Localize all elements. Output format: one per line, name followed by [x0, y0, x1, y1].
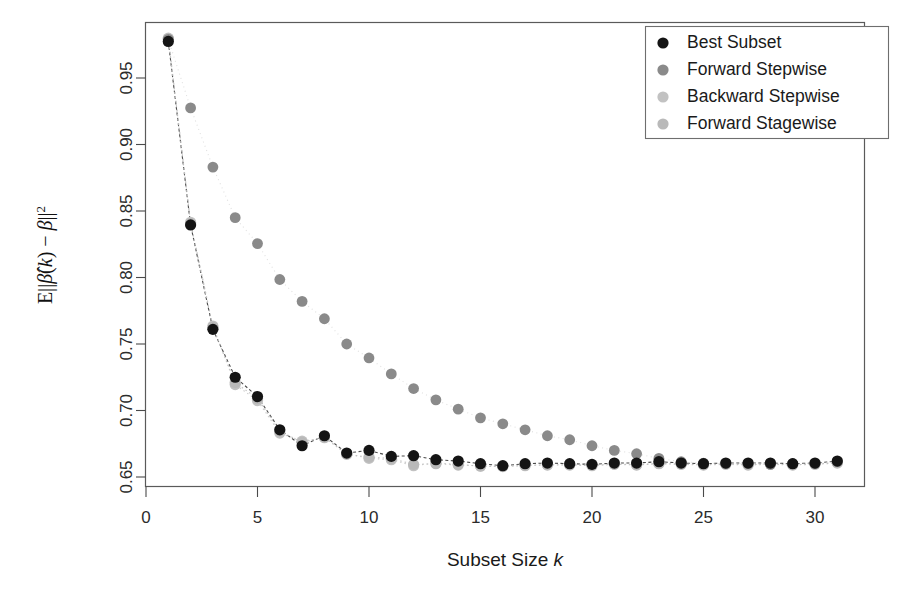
data-point	[185, 219, 196, 230]
data-point	[720, 457, 731, 468]
scatter-plot: 0.650.700.750.800.850.900.95 05101520253…	[0, 0, 908, 597]
data-point	[363, 445, 374, 456]
data-point	[586, 459, 597, 470]
data-point	[832, 455, 843, 466]
data-point	[564, 458, 575, 469]
data-point	[341, 339, 352, 350]
data-point	[297, 440, 308, 451]
data-point	[208, 162, 219, 173]
data-point	[386, 369, 397, 380]
data-point	[453, 404, 464, 415]
legend-label: Forward Stepwise	[687, 59, 827, 79]
data-point	[319, 313, 330, 324]
data-point	[787, 458, 798, 469]
data-point	[520, 458, 531, 469]
data-point	[453, 455, 464, 466]
data-point	[609, 445, 620, 456]
y-tick-label: 0.90	[117, 128, 136, 161]
legend-label: Forward Stagewise	[687, 113, 837, 133]
x-tick-label: 30	[806, 508, 825, 527]
data-point	[274, 274, 285, 285]
data-point	[252, 391, 263, 402]
x-axis-title-text: Subset Size	[447, 549, 548, 570]
x-tick-label: 5	[253, 508, 262, 527]
x-axis-title: Subset Size k	[447, 549, 565, 570]
y-tick-label: 0.85	[117, 194, 136, 227]
data-point	[497, 460, 508, 471]
data-point	[430, 454, 441, 465]
y-axis-ticks: 0.650.700.750.800.850.900.95	[117, 61, 145, 493]
y-tick-label: 0.80	[117, 261, 136, 294]
data-point	[207, 324, 218, 335]
x-tick-label: 10	[360, 508, 379, 527]
data-point	[431, 394, 442, 405]
data-point	[185, 103, 196, 114]
data-point	[274, 424, 285, 435]
data-point	[809, 457, 820, 468]
y-tick-label: 0.70	[117, 394, 136, 427]
data-point	[542, 457, 553, 468]
data-point	[364, 353, 375, 364]
data-point	[676, 457, 687, 468]
data-point	[408, 383, 419, 394]
data-point	[743, 457, 754, 468]
y-tick-label: 0.65	[117, 460, 136, 493]
legend-marker	[657, 118, 668, 129]
data-point	[408, 450, 419, 461]
y-axis-title: E||β̂(k) − β||2	[33, 206, 57, 304]
y-tick-label: 0.75	[117, 327, 136, 360]
data-point	[230, 212, 241, 223]
data-point	[497, 418, 508, 429]
data-point	[341, 447, 352, 458]
legend-label: Backward Stepwise	[687, 86, 840, 106]
data-point	[230, 372, 241, 383]
legend-marker	[657, 91, 668, 102]
x-axis-title-symbol: k	[554, 549, 565, 570]
svg-text:Subset Size k: Subset Size k	[447, 549, 565, 570]
data-point	[564, 434, 575, 445]
x-tick-label: 20	[583, 508, 602, 527]
data-point	[386, 451, 397, 462]
data-point	[520, 424, 531, 435]
data-point	[631, 457, 642, 468]
x-axis-ticks: 051015202530	[141, 487, 824, 528]
legend: Best SubsetForward StepwiseBackward Step…	[646, 27, 889, 139]
legend-marker	[657, 64, 668, 75]
data-point	[319, 430, 330, 441]
x-tick-label: 25	[694, 508, 713, 527]
data-point	[163, 36, 174, 47]
data-point	[587, 440, 598, 451]
data-point	[765, 457, 776, 468]
data-point	[653, 456, 664, 467]
figure-container: 0.650.700.750.800.850.900.95 05101520253…	[0, 0, 908, 597]
data-point	[475, 412, 486, 423]
y-tick-label: 0.95	[117, 61, 136, 94]
legend-marker	[657, 37, 668, 48]
legend-label: Best Subset	[687, 32, 781, 52]
svg-text:E||β̂(k) − β||2: E||β̂(k) − β||2	[33, 206, 57, 304]
data-point	[609, 457, 620, 468]
data-point	[475, 458, 486, 469]
data-point	[698, 458, 709, 469]
data-point	[297, 296, 308, 307]
x-tick-label: 15	[471, 508, 490, 527]
data-point	[542, 430, 553, 441]
data-point	[252, 238, 263, 249]
x-tick-label: 0	[141, 508, 150, 527]
